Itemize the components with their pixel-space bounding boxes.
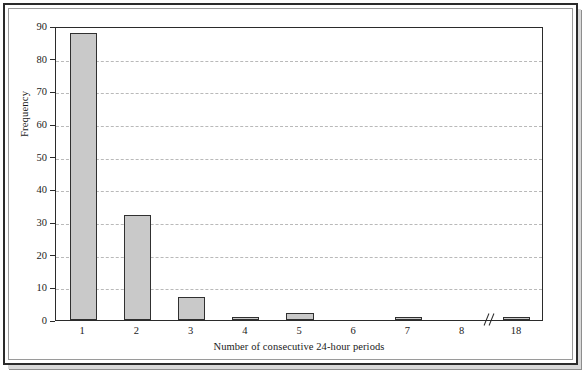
y-tick-label: 30 bbox=[37, 215, 48, 231]
bar bbox=[178, 297, 205, 320]
y-tick-label: 10 bbox=[37, 280, 48, 296]
plot-area bbox=[55, 27, 543, 321]
figure-inner-frame: Frequency 0102030405060708090 1234567818… bbox=[8, 8, 573, 360]
bar bbox=[70, 33, 97, 320]
bar bbox=[124, 215, 151, 320]
bar bbox=[232, 317, 259, 320]
x-tick-label: 7 bbox=[405, 325, 410, 336]
y-tick-label: 40 bbox=[37, 182, 48, 198]
y-tick-label: 20 bbox=[37, 248, 48, 264]
bars-layer bbox=[56, 28, 542, 320]
x-tick-label: 4 bbox=[242, 325, 247, 336]
figure-outer-frame: Frequency 0102030405060708090 1234567818… bbox=[3, 3, 578, 365]
x-tick-label: 2 bbox=[134, 325, 139, 336]
x-tick-label: 8 bbox=[459, 325, 464, 336]
y-tick-label: 0 bbox=[42, 313, 47, 329]
bar bbox=[286, 313, 313, 320]
x-tick-label: 5 bbox=[296, 325, 301, 336]
y-axis-ticks: 0102030405060708090 bbox=[9, 27, 55, 321]
x-tick-label: 1 bbox=[79, 325, 84, 336]
bar bbox=[395, 317, 422, 320]
y-tick-label: 80 bbox=[37, 52, 48, 68]
x-axis-ticks: 1234567818 bbox=[55, 321, 543, 341]
y-tick-label: 60 bbox=[37, 117, 48, 133]
x-tick-label: 3 bbox=[188, 325, 193, 336]
x-tick-label: 18 bbox=[511, 325, 522, 336]
x-axis-title: Number of consecutive 24-hour periods bbox=[55, 341, 543, 352]
bar bbox=[503, 317, 530, 320]
y-tick-label: 90 bbox=[37, 19, 48, 35]
y-tick-label: 70 bbox=[37, 84, 48, 100]
x-tick-label: 6 bbox=[351, 325, 356, 336]
y-tick-label: 50 bbox=[37, 150, 48, 166]
